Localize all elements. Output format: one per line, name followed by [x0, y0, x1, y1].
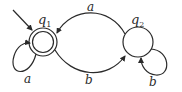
state-q2-circle	[123, 27, 153, 57]
transition-q1-q2-arc	[55, 50, 125, 73]
label-q2-q1-a: a	[87, 0, 94, 14]
diagram-svg: q1 q2 a b a b	[0, 0, 182, 92]
transition-q1-self-loop	[13, 43, 36, 72]
label-q1-self-a: a	[24, 72, 31, 86]
label-q2-self-b: b	[149, 75, 157, 89]
start-arrow	[13, 10, 32, 30]
transition-q2-q1-arc	[57, 13, 125, 34]
state-q1[interactable]	[29, 28, 57, 56]
state-q1-inner-circle	[33, 32, 54, 53]
state-q2-label: q2	[131, 12, 144, 29]
label-q1-q2-b: b	[85, 73, 93, 87]
state-q2[interactable]	[123, 27, 153, 57]
dfa-diagram: q1 q2 a b a b	[0, 0, 182, 92]
transition-q2-self-loop	[141, 49, 167, 75]
state-q1-outer-circle	[29, 28, 57, 56]
state-q1-label: q1	[38, 12, 51, 29]
